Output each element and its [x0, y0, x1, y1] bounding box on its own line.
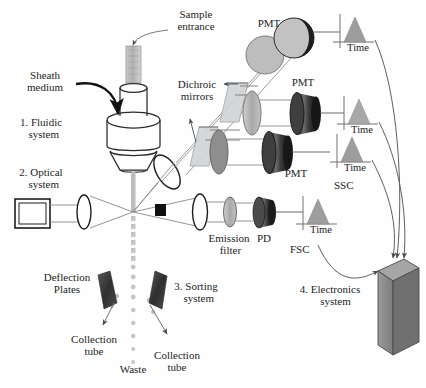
dichroic-leader-bottom — [190, 119, 196, 142]
sample-entrance-leader — [133, 30, 168, 45]
filter-to-pd-beam — [236, 203, 253, 221]
pd-detector — [253, 197, 276, 228]
label-dichroic-mirrors: Dichroic mirrors — [166, 78, 228, 103]
label-sample-entrance: Sample entrance — [165, 8, 227, 33]
label-time-3: Time — [338, 162, 372, 174]
label-pmt-middle: PMT — [288, 76, 318, 88]
laser-beam — [50, 205, 78, 222]
figure-canvas: Sample entrance Sheath medium 1. Fluidic… — [0, 0, 426, 388]
label-time-2: Time — [345, 124, 379, 136]
focusing-lens — [77, 195, 91, 229]
label-sheath-medium: Sheath medium — [14, 69, 76, 94]
collection-lens-forward — [193, 194, 208, 230]
sample-stream — [131, 172, 136, 212]
droplet-stream — [131, 216, 136, 364]
label-waste: Waste — [107, 363, 159, 375]
bandpass-filter-middle — [243, 91, 261, 135]
label-time-1: Time — [341, 42, 375, 54]
collection-arrow-right — [150, 305, 167, 334]
label-pd: PD — [252, 232, 276, 244]
label-deflection-plates: Deflection Plates — [32, 271, 102, 296]
laser-box — [15, 199, 50, 228]
label-ssc: SSC — [334, 179, 354, 191]
beam-blocker — [155, 204, 166, 216]
emission-filter — [224, 197, 237, 227]
electronics-box — [378, 259, 419, 355]
label-sorting-system: 3. Sorting system — [160, 280, 232, 305]
label-fsc: FSC — [290, 243, 310, 255]
label-optical-system: 2. Optical system — [5, 166, 77, 191]
bandpass-filter-bottom — [210, 130, 228, 174]
label-pmt-top: PMT — [254, 17, 284, 29]
label-collection-tube-left: Collection tube — [61, 333, 127, 358]
converging-beam — [90, 196, 133, 228]
flow-cytometer-diagram — [0, 0, 426, 388]
sheath-medium-arrow — [76, 83, 118, 113]
forward-collimated-beam — [207, 202, 225, 222]
label-fluidic-system: 1. Fluidic system — [5, 116, 77, 141]
beam-filter-to-pmt-bottom — [227, 139, 263, 165]
label-time-4: Time — [304, 224, 338, 236]
pmt-middle — [290, 93, 321, 136]
flow-cell-nozzle — [107, 84, 160, 173]
beam-filter-to-pmt-middle — [260, 100, 291, 126]
label-pmt-bottom: PMT — [281, 167, 311, 179]
label-electronics-system: 4. Electronics system — [285, 283, 375, 308]
sample-entrance-tube — [126, 46, 141, 83]
